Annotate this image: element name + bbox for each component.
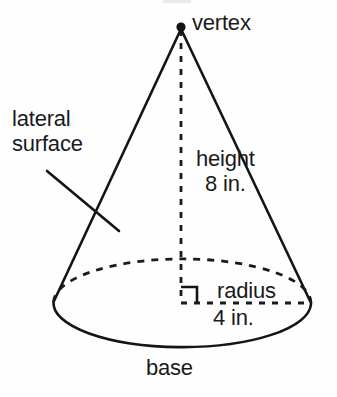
lateral-surface-leader-line	[47, 171, 119, 231]
vertex-point	[176, 22, 185, 31]
radius-value-label: 4 in.	[213, 305, 254, 330]
lateral-surface-label-line1: lateral	[12, 106, 71, 131]
lateral-surface-label: lateralsurface	[12, 106, 83, 156]
cone-diagram-svg	[0, 0, 337, 397]
radius-label: radius	[217, 278, 276, 303]
lateral-surface-lines	[54, 29, 311, 303]
base-front-arc	[53, 302, 311, 347]
lateral-surface-label-line2: surface	[12, 131, 83, 156]
right-angle-marker	[181, 287, 197, 303]
cone-figure: vertex lateralsurface height8 in. radius…	[0, 0, 337, 397]
height-label: height8 in.	[196, 146, 255, 196]
vertex-label: vertex	[192, 10, 251, 35]
left-slant-line	[54, 29, 181, 301]
scan-artifact	[163, 0, 191, 3]
height-value-text: 8 in.	[196, 171, 255, 196]
base-label: base	[146, 355, 193, 380]
height-label-text: height	[196, 146, 255, 171]
